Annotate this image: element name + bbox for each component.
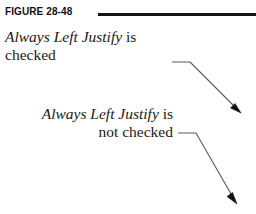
figure-header: FIGURE 28-48 [0, 0, 256, 24]
caption-checked-line-1: Always Left Justify is [5, 28, 136, 46]
leader-not-checked-arrowhead-icon [227, 193, 237, 205]
caption-not-checked: Always Left Justify is not checked [0, 105, 173, 140]
figure-number-label: FIGURE 28-48 [5, 6, 72, 18]
caption-not-checked-line-1: Always Left Justify is [0, 105, 173, 123]
caption-checked: Always Left Justify is checked [5, 28, 136, 63]
figure-panel: FIGURE 28-48 Always Left Justify is chec… [0, 0, 256, 214]
caption-not-checked-option-name: Always Left Justify [42, 105, 159, 122]
leader-not-checked-path [179, 133, 233, 197]
leader-checked-arrowhead-icon [231, 104, 242, 114]
caption-not-checked-line-2: not checked [0, 123, 173, 141]
leader-checked-path [173, 62, 237, 109]
caption-checked-line-2: checked [5, 46, 136, 64]
caption-checked-option-name: Always Left Justify [5, 28, 122, 45]
leader-checked [173, 62, 242, 113]
caption-checked-line-1-suffix: is [122, 28, 136, 45]
figure-header-rule [98, 13, 256, 16]
leader-not-checked [179, 133, 238, 204]
caption-not-checked-line-1-suffix: is [159, 105, 173, 122]
